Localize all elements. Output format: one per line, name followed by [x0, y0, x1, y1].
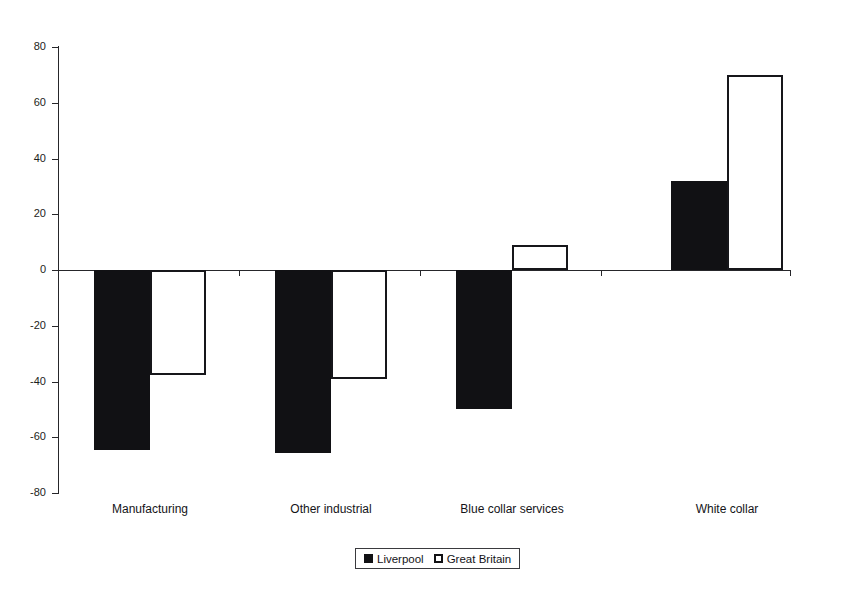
y-axis-tick-label: 20	[2, 208, 46, 219]
legend-swatch-icon	[434, 554, 443, 563]
bar-liverpool	[671, 181, 727, 270]
x-axis-tick	[790, 270, 791, 276]
y-axis-tick	[52, 493, 59, 494]
bar-great-britain	[512, 245, 568, 270]
x-axis-category-label: Blue collar services	[460, 503, 563, 516]
bar-liverpool	[94, 270, 150, 450]
y-axis-tick-label: 60	[2, 97, 46, 108]
bar-liverpool	[275, 270, 331, 453]
bar-great-britain	[150, 270, 206, 375]
legend-item: Liverpool	[364, 553, 424, 565]
bar-great-britain	[727, 75, 783, 270]
bar-great-britain	[331, 270, 387, 379]
x-axis-category-label: White collar	[696, 503, 759, 516]
y-axis-tick	[52, 437, 59, 438]
legend-label: Liverpool	[377, 553, 424, 565]
y-axis-tick-label: 80	[2, 41, 46, 52]
y-axis-tick-label: -40	[2, 376, 46, 387]
x-axis-tick	[420, 270, 421, 276]
y-axis-tick	[52, 326, 59, 327]
chart-legend: LiverpoolGreat Britain	[355, 548, 520, 569]
bar-chart-figure: 806040200-20-40-60-80 ManufacturingOther…	[0, 0, 841, 594]
y-axis-tick	[52, 159, 59, 160]
x-axis-category-label: Manufacturing	[112, 503, 188, 516]
legend-item: Great Britain	[434, 553, 512, 565]
y-axis-tick-label: -20	[2, 320, 46, 331]
y-axis-tick	[52, 103, 59, 104]
legend-swatch-icon	[364, 554, 373, 563]
y-axis-tick	[52, 47, 59, 48]
y-axis-tick	[52, 382, 59, 383]
x-axis-tick	[601, 270, 602, 276]
legend-label: Great Britain	[447, 553, 512, 565]
y-axis-tick-label: 40	[2, 153, 46, 164]
y-axis-tick-label: -60	[2, 431, 46, 442]
x-axis-tick	[239, 270, 240, 276]
clipped-title-text	[0, 0, 841, 3]
y-axis-tick-label: -80	[2, 487, 46, 498]
y-axis-tick	[52, 214, 59, 215]
y-axis-tick-label: 0	[2, 264, 46, 275]
x-axis-category-label: Other industrial	[290, 503, 371, 516]
bar-liverpool	[456, 270, 512, 409]
x-axis-tick	[58, 270, 59, 276]
